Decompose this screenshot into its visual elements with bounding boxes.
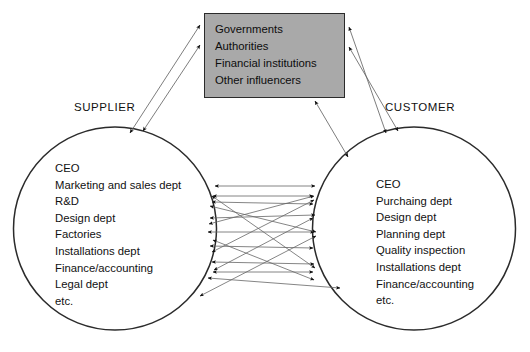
influencer-item: Other influencers xyxy=(215,72,344,89)
diagram-canvas: Governments Authorities Financial instit… xyxy=(0,0,530,352)
supplier-item: Installations dept xyxy=(55,243,181,260)
supplier-customer-connectors xyxy=(200,186,340,296)
supplier-item: Marketing and sales dept xyxy=(55,177,181,194)
supplier-item: R&D xyxy=(55,193,181,210)
customer-item: Installations dept xyxy=(376,259,474,276)
supplier-list: CEO Marketing and sales dept R&D Design … xyxy=(55,160,181,309)
customer-list: CEO Purchaing dept Design dept Planning … xyxy=(376,176,474,309)
influencers-list: Governments Authorities Financial instit… xyxy=(205,14,344,89)
customer-item: Planning dept xyxy=(376,226,474,243)
customer-item: Purchaing dept xyxy=(376,193,474,210)
customer-item: Quality inspection xyxy=(376,242,474,259)
influencer-item: Financial institutions xyxy=(215,55,344,72)
supplier-influencer-connectors xyxy=(130,25,200,133)
customer-item: CEO xyxy=(376,176,474,193)
supplier-label: SUPPLIER xyxy=(74,101,135,113)
supplier-item: Legal dept xyxy=(55,276,181,293)
supplier-item: etc. xyxy=(55,293,181,310)
supplier-item: Finance/accounting xyxy=(55,260,181,277)
influencer-item: Governments xyxy=(215,21,344,38)
supplier-item: Design dept xyxy=(55,210,181,227)
customer-item: Finance/accounting xyxy=(376,276,474,293)
supplier-item: Factories xyxy=(55,226,181,243)
customer-item: Design dept xyxy=(376,209,474,226)
influencers-box: Governments Authorities Financial instit… xyxy=(204,13,345,98)
supplier-item: CEO xyxy=(55,160,181,177)
customer-item: etc. xyxy=(376,292,474,309)
customer-label: CUSTOMER xyxy=(385,101,455,113)
influencer-item: Authorities xyxy=(215,38,344,55)
